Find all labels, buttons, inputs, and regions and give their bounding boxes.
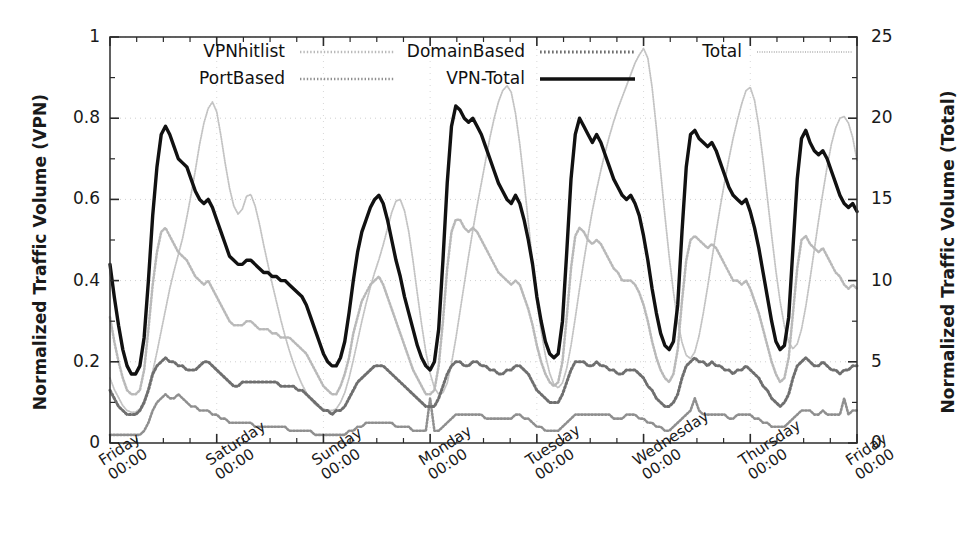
y-axis-right-tick-label: 20 (871, 107, 915, 127)
y-axis-right-tick-label: 25 (871, 26, 915, 46)
y-axis-left-tick-label: 1 (56, 26, 100, 46)
legend-label-portbased: PortBased (115, 68, 285, 88)
chart-container: Normalized Traffic Volume (VPN) Normaliz… (0, 0, 974, 541)
y-axis-left-tick-label: 0.6 (56, 188, 100, 208)
y-axis-right-tick-label: 15 (871, 188, 915, 208)
legend-label-vpn-total: VPN-Total (355, 68, 525, 88)
legend-label-total: Total (572, 41, 742, 61)
series-line-portbased (110, 394, 857, 435)
y-axis-left-tick-label: 0.2 (56, 351, 100, 371)
y-axis-right-tick-label: 10 (871, 270, 915, 290)
y-axis-left-tick-label: 0 (56, 432, 100, 452)
legend-label-domainbased: DomainBased (355, 41, 525, 61)
series-line-domainbased (110, 358, 857, 415)
y-axis-left-tick-label: 0.4 (56, 270, 100, 290)
legend-label-vpnhitlist: VPNhitlist (115, 41, 285, 61)
y-axis-left-tick-label: 0.8 (56, 107, 100, 127)
y-axis-right-tick-label: 5 (871, 351, 915, 371)
